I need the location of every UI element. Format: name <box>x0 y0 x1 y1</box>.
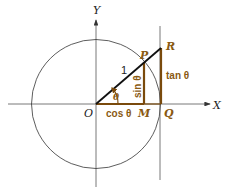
point-m-label: M <box>137 107 151 120</box>
angle-label: θ <box>113 92 119 102</box>
tan-label: tan θ <box>166 70 189 81</box>
unit-circle-diagram: Y X O P R M Q 1 cos θ tan θ sin θ θ <box>0 0 234 193</box>
sin-label: sin θ <box>132 75 143 98</box>
point-r-label: R <box>165 40 175 53</box>
cos-label: cos θ <box>106 108 131 119</box>
point-p-label: P <box>139 49 149 62</box>
y-axis-label: Y <box>93 4 102 17</box>
origin-label: O <box>84 107 93 120</box>
point-q-label: Q <box>164 107 174 120</box>
radius-line <box>96 48 161 104</box>
x-axis-label: X <box>212 99 222 112</box>
radius-label: 1 <box>121 64 127 76</box>
